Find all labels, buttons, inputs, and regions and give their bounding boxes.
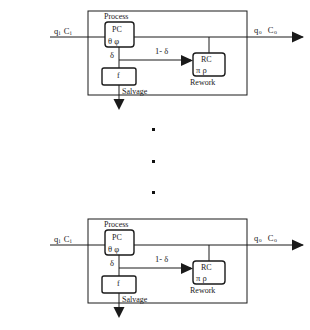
output-c-symbol: Co <box>265 233 277 243</box>
input-q-symbol: qi <box>54 234 61 244</box>
output-q-symbol: qo <box>254 25 262 35</box>
diagram-canvas: qi Ci qo Co Process PC θ φ δ 1- δ f Salv… <box>0 0 310 330</box>
rework-input-arrowhead <box>181 55 193 66</box>
rc-name-bottom: RC <box>201 264 212 272</box>
stage-bottom-graphics <box>0 208 310 330</box>
pc-name-top: PC <box>112 26 122 34</box>
input-label-top: qi Ci <box>54 27 72 36</box>
input-c-symbol: Ci <box>64 234 72 244</box>
output-arrowhead <box>292 32 304 43</box>
output-arrowhead <box>292 240 304 251</box>
one-minus-delta-label-bottom: 1- δ <box>155 255 168 264</box>
input-c-symbol: Ci <box>64 26 72 36</box>
salvage-caption-top: Salvage <box>122 88 147 96</box>
rc-params-top: π ρ <box>196 66 207 75</box>
output-q-symbol: qo <box>254 233 262 243</box>
ellipsis-dot <box>152 191 155 194</box>
pc-params-bottom: θ φ <box>108 245 119 254</box>
pc-params-top: θ φ <box>108 37 119 46</box>
stage-repetition-ellipsis <box>152 128 155 194</box>
rc-params-bottom: π ρ <box>196 274 207 283</box>
process-caption-top: Process <box>104 13 128 21</box>
ellipsis-dot <box>152 160 155 163</box>
salvage-arrowhead <box>114 307 125 318</box>
delta-label-bottom: δ <box>110 259 114 268</box>
ellipsis-dot <box>152 128 155 131</box>
delta-label-top: δ <box>110 51 114 60</box>
process-stage-bottom: qi Ci qo Co Process PC θ φ δ 1- δ f Salv… <box>0 208 310 330</box>
salvage-arrowhead <box>114 99 125 110</box>
rework-input-arrowhead <box>181 263 193 274</box>
salvage-caption-bottom: Salvage <box>122 296 147 304</box>
one-minus-delta-label-top: 1- δ <box>155 47 168 56</box>
rework-caption-bottom: Rework <box>190 287 215 295</box>
rework-caption-top: Rework <box>190 79 215 87</box>
pc-name-bottom: PC <box>112 234 122 242</box>
input-label-bottom: qi Ci <box>54 235 72 244</box>
process-caption-bottom: Process <box>104 221 128 229</box>
rc-name-top: RC <box>201 56 212 64</box>
input-q-symbol: qi <box>54 26 61 36</box>
output-c-symbol: Co <box>265 25 277 35</box>
salvage-fn-label-bottom: f <box>117 280 120 288</box>
output-label-top: qo Co <box>254 26 278 35</box>
salvage-fn-label-top: f <box>117 72 120 80</box>
output-label-bottom: qo Co <box>254 234 278 243</box>
